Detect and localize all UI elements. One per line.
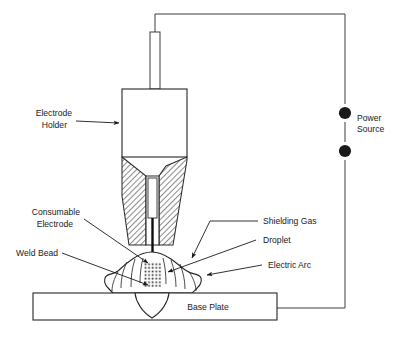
power-source-label-line1: Power	[357, 113, 381, 123]
consumable-electrode-label-line1: Consumable	[32, 207, 80, 217]
nozzle-wall-right	[159, 157, 187, 245]
electrode-holder-body	[122, 89, 187, 157]
consumable-electrode-label-line2: Electrode	[37, 219, 74, 229]
leader-droplet	[168, 240, 256, 272]
leader-shielding-gas	[192, 221, 258, 258]
electric-arc-label: Electric Arc	[268, 260, 312, 270]
shielding-gas-label: Shielding Gas	[263, 216, 317, 226]
welding-diagram-canvas: Power Source	[0, 0, 396, 337]
electrode-wire-tube	[150, 32, 160, 89]
welding-nozzle	[122, 157, 187, 245]
welding-diagram: Power Source	[0, 0, 396, 337]
leader-electric-arc	[207, 265, 262, 275]
nozzle-wall-left	[122, 157, 146, 245]
droplet-label: Droplet	[263, 235, 291, 245]
leader-electrode-holder	[76, 121, 119, 123]
power-source-label-line2: Source	[357, 124, 384, 134]
base-plate-label: Base Plate	[187, 302, 229, 312]
power-terminal-negative	[339, 145, 351, 157]
electrode-holder-label-line1: Electrode	[36, 108, 73, 118]
power-terminal-positive	[339, 107, 351, 119]
electrode-holder-label-line2: Holder	[42, 120, 67, 130]
contact-tip-sleeve	[148, 178, 157, 218]
weld-bead-label: Weld Bead	[16, 248, 58, 258]
